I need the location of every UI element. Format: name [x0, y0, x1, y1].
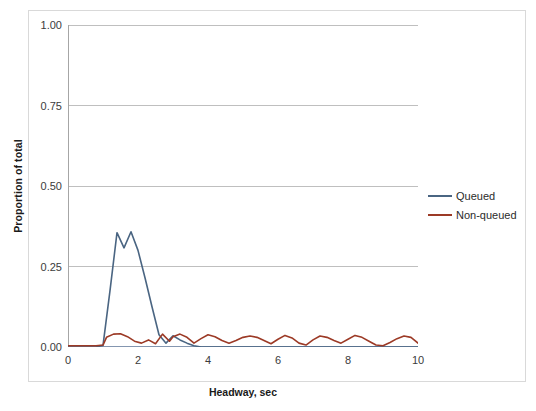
y-tick-label: 0.50	[16, 180, 62, 192]
legend-item[interactable]: Non-queued	[428, 205, 524, 224]
legend-color-swatch	[428, 195, 452, 197]
x-axis-title: Headway, sec	[68, 386, 418, 398]
x-tick-label: 4	[205, 354, 211, 366]
legend-item[interactable]: Queued	[428, 186, 524, 205]
x-tick-label: 2	[135, 354, 141, 366]
chart-legend: QueuedNon-queued	[428, 186, 524, 224]
x-tick-label: 8	[345, 354, 351, 366]
legend-label: Non-queued	[456, 209, 517, 221]
gridlines	[68, 25, 418, 347]
y-tick-label: 0.75	[16, 100, 62, 112]
plot-area	[68, 25, 418, 347]
y-tick-label: 0.25	[16, 261, 62, 273]
plot-svg	[68, 25, 418, 347]
y-axis-tick-labels: 0.000.250.500.751.00	[12, 25, 62, 347]
x-tick-label: 6	[275, 354, 281, 366]
x-tick-label: 10	[412, 354, 424, 366]
y-tick-label: 1.00	[16, 19, 62, 31]
x-tick-label: 0	[65, 354, 71, 366]
legend-color-swatch	[428, 214, 452, 216]
y-tick-label: 0.00	[16, 341, 62, 353]
legend-label: Queued	[456, 190, 495, 202]
x-axis-tick-labels: 0246810	[68, 348, 418, 368]
data-series	[68, 232, 418, 347]
chart-figure: Proportion of total 0.000.250.500.751.00…	[0, 0, 536, 411]
